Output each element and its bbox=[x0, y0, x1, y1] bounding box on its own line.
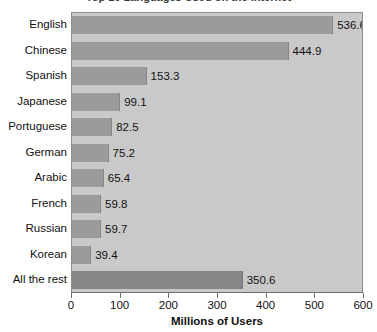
bar bbox=[72, 246, 91, 264]
bar-value-label: 350.6 bbox=[243, 271, 276, 289]
bar-row: 59.7 bbox=[72, 217, 362, 243]
x-tick bbox=[120, 293, 121, 298]
bar-value-label: 444.9 bbox=[289, 42, 322, 60]
bar-value-label: 59.8 bbox=[101, 195, 127, 213]
bar bbox=[72, 169, 104, 187]
bar-row: 444.9 bbox=[72, 39, 362, 65]
category-label: Arabic bbox=[0, 165, 67, 191]
bar-chart-figure: Top 10 Languages Used on the Internet En… bbox=[0, 0, 377, 332]
bar-row: 39.4 bbox=[72, 243, 362, 269]
x-tick-label: 600 bbox=[333, 299, 377, 311]
bar-value-label: 75.2 bbox=[109, 144, 135, 162]
bar bbox=[72, 16, 333, 34]
x-tick bbox=[314, 293, 315, 298]
category-label: Korean bbox=[0, 242, 67, 268]
bar-row: 59.8 bbox=[72, 192, 362, 218]
category-label: Spanish bbox=[0, 63, 67, 89]
bar bbox=[72, 93, 120, 111]
x-tick bbox=[217, 293, 218, 298]
bar bbox=[72, 67, 147, 85]
x-tick bbox=[266, 293, 267, 298]
category-label: French bbox=[0, 191, 67, 217]
category-label: All the rest bbox=[0, 267, 67, 293]
bar-value-label: 153.3 bbox=[147, 67, 180, 85]
x-axis-title: Millions of Users bbox=[71, 315, 363, 327]
category-label: German bbox=[0, 140, 67, 166]
bar-value-label: 82.5 bbox=[112, 118, 138, 136]
bar bbox=[72, 42, 289, 60]
category-label: Chinese bbox=[0, 38, 67, 64]
bar bbox=[72, 118, 112, 136]
chart-title: Top 10 Languages Used on the Internet bbox=[0, 0, 377, 3]
bar-row: 153.3 bbox=[72, 64, 362, 90]
bar-row: 536.6 bbox=[72, 13, 362, 39]
x-tick bbox=[363, 293, 364, 298]
bar-value-label: 59.7 bbox=[101, 220, 127, 238]
plot-area: 536.6444.9153.399.182.575.265.459.859.73… bbox=[71, 12, 363, 293]
bar bbox=[72, 220, 101, 238]
bar bbox=[72, 195, 101, 213]
bar-row: 82.5 bbox=[72, 115, 362, 141]
bar-row: 65.4 bbox=[72, 166, 362, 192]
bar bbox=[72, 144, 109, 162]
bar bbox=[72, 271, 243, 289]
bar-value-label: 39.4 bbox=[91, 246, 117, 264]
bar-value-label: 99.1 bbox=[120, 93, 146, 111]
bar-row: 75.2 bbox=[72, 141, 362, 167]
bar-value-label: 536.6 bbox=[333, 16, 363, 34]
category-label: Russian bbox=[0, 216, 67, 242]
category-label: Japanese bbox=[0, 89, 67, 115]
bar-value-label: 65.4 bbox=[104, 169, 130, 187]
category-axis-labels: EnglishChineseSpanishJapanesePortugueseG… bbox=[0, 12, 67, 293]
x-tick bbox=[71, 293, 72, 298]
bar-row: 99.1 bbox=[72, 90, 362, 116]
bar-row: 350.6 bbox=[72, 268, 362, 293]
category-label: English bbox=[0, 12, 67, 38]
x-tick bbox=[168, 293, 169, 298]
category-label: Portuguese bbox=[0, 114, 67, 140]
